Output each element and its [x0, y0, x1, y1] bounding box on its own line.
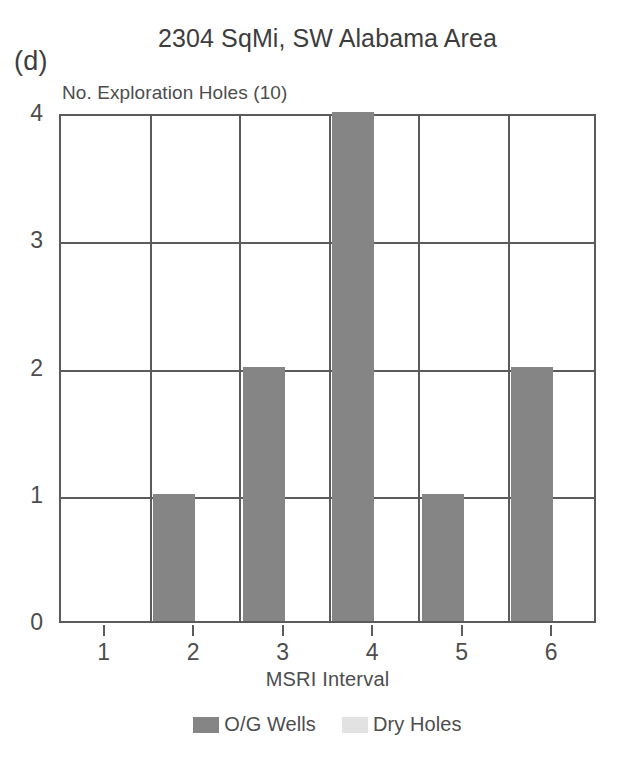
gridline-vertical	[508, 116, 510, 621]
panel-label: (d)	[14, 46, 48, 77]
y-tick-label: 0	[3, 611, 43, 634]
x-tick-mark	[103, 625, 105, 636]
chart-legend: O/G WellsDry Holes	[59, 713, 596, 736]
x-tick-mark	[192, 625, 194, 636]
legend-item: Dry Holes	[342, 713, 462, 736]
x-tick-mark	[282, 625, 284, 636]
gridline-vertical	[418, 116, 420, 621]
legend-item: O/G Wells	[193, 713, 316, 736]
x-tick-label: 5	[442, 641, 482, 664]
gridline-horizontal	[61, 242, 594, 244]
x-tick-label: 6	[531, 641, 571, 664]
y-tick-label: 3	[3, 229, 43, 252]
y-tick-label: 1	[3, 484, 43, 507]
bar-o-g-wells-2	[153, 494, 195, 621]
page-title: 2304 SqMi, SW Alabama Area	[59, 24, 596, 53]
x-axis-label: MSRI Interval	[59, 668, 596, 691]
legend-swatch-icon	[193, 717, 219, 733]
bar-o-g-wells-6	[511, 367, 553, 622]
x-tick-label: 1	[84, 641, 124, 664]
x-tick-label: 2	[173, 641, 213, 664]
x-tick-label: 4	[352, 641, 392, 664]
x-tick-mark	[461, 625, 463, 636]
bar-o-g-wells-4	[332, 112, 374, 621]
gridline-vertical	[150, 116, 152, 621]
y-tick-label: 4	[3, 102, 43, 125]
y-tick-label: 2	[3, 357, 43, 380]
bar-o-g-wells-3	[243, 367, 285, 622]
legend-swatch-icon	[342, 717, 368, 733]
x-tick-mark	[550, 625, 552, 636]
legend-label: O/G Wells	[224, 713, 316, 736]
legend-label: Dry Holes	[373, 713, 462, 736]
y-axis-label: No. Exploration Holes (10)	[62, 82, 287, 104]
plot-area	[59, 114, 596, 623]
bar-o-g-wells-5	[422, 494, 464, 621]
gridline-vertical	[329, 116, 331, 621]
gridline-vertical	[239, 116, 241, 621]
x-tick-label: 3	[263, 641, 303, 664]
chart-figure: (d) 2304 SqMi, SW Alabama Area No. Explo…	[0, 0, 633, 764]
x-tick-mark	[371, 625, 373, 636]
